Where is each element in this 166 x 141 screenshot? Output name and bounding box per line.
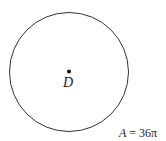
area-label: A = 36π [118,126,157,140]
center-point [67,70,71,74]
circle-diagram: D A = 36π [0,0,166,141]
area-value: = 36π [126,126,157,140]
center-label: D [62,75,73,90]
